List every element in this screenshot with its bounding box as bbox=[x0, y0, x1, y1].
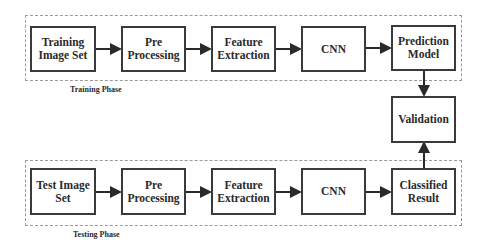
step-line1: CNN bbox=[321, 43, 346, 56]
testing-preprocessing-box: PreProcessing bbox=[121, 168, 186, 215]
step-line1: Training bbox=[42, 36, 85, 48]
step-line2: Set bbox=[55, 192, 70, 204]
training-phase-label: Training Phase bbox=[70, 85, 122, 94]
validation-box: Validation bbox=[391, 96, 456, 143]
step-line2: Extraction bbox=[217, 49, 269, 61]
classified-result-box: ClassifiedResult bbox=[391, 168, 456, 215]
step-line1: Pre bbox=[145, 36, 162, 48]
training-image-set-box: TrainingImage Set bbox=[30, 26, 96, 72]
training-cnn-box: CNN bbox=[301, 26, 366, 72]
validation-label: Validation bbox=[398, 113, 449, 126]
training-feature-extraction-box: FeatureExtraction bbox=[211, 26, 276, 72]
training-preprocessing-box: PreProcessing bbox=[121, 26, 186, 72]
testing-feature-extraction-box: FeatureExtraction bbox=[211, 168, 276, 215]
step-line1: Prediction bbox=[398, 35, 449, 47]
testing-cnn-box: CNN bbox=[301, 168, 366, 215]
prediction-model-box: PredictionModel bbox=[391, 25, 456, 71]
step-line2: Result bbox=[408, 192, 439, 204]
step-line1: Classified bbox=[400, 179, 448, 191]
step-line1: CNN bbox=[321, 185, 346, 198]
step-line2: Processing bbox=[127, 192, 179, 204]
step-line1: Test Image bbox=[36, 179, 90, 191]
step-line2: Extraction bbox=[217, 192, 269, 204]
step-line2: Processing bbox=[127, 49, 179, 61]
step-line2: Model bbox=[408, 48, 439, 60]
test-image-set-box: Test ImageSet bbox=[30, 168, 96, 215]
step-line2: Image Set bbox=[39, 49, 88, 61]
testing-phase-label: Testing Phase bbox=[73, 230, 120, 239]
step-line1: Pre bbox=[145, 179, 162, 191]
step-line1: Feature bbox=[224, 36, 262, 48]
step-line1: Feature bbox=[224, 179, 262, 191]
